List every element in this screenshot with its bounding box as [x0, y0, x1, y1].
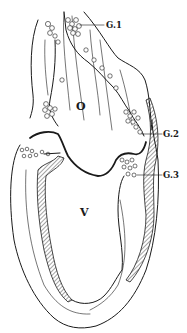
- label-ventricle: V: [79, 206, 89, 219]
- ganglion-ventricle-left: [20, 147, 50, 158]
- ganglion-3-cluster: [120, 158, 137, 177]
- right-hatched-wall: [126, 98, 158, 282]
- label-g2: G.2: [163, 129, 179, 139]
- ventricle-cavity-edge: [72, 176, 124, 303]
- label-atrium: O: [76, 100, 86, 113]
- left-hatched-wall: [37, 156, 72, 302]
- label-g1: G.1: [106, 20, 122, 30]
- label-g3: G.3: [163, 170, 179, 180]
- ganglion-2-cluster: [124, 110, 142, 134]
- heart-section-diagram: G.1 G.2: [0, 0, 187, 333]
